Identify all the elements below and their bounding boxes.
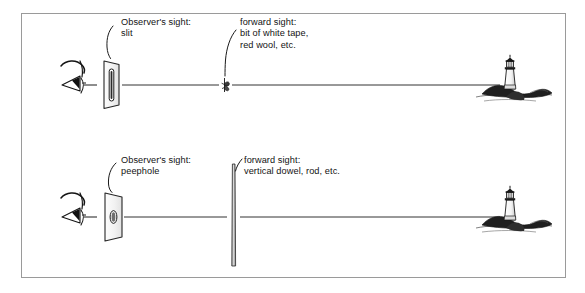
label-observer-sight-slit: Observer's sight: slit — [121, 17, 191, 40]
figure-root: Observer's sight: slit forward sight: bi… — [0, 0, 585, 293]
leader-line-icon — [107, 26, 113, 59]
label-forward-sight-tape: forward sight: bit of white tape, red wo… — [240, 17, 308, 51]
slit-plate-icon — [104, 61, 119, 109]
eye-icon — [61, 193, 86, 225]
lighthouse-icon — [476, 55, 552, 101]
lighthouse-icon — [476, 186, 552, 232]
eye-icon — [61, 61, 86, 93]
label-observer-sight-peephole: Observer's sight: peephole — [121, 155, 191, 178]
peephole-plate-icon — [105, 193, 122, 241]
label-forward-sight-dowel: forward sight: vertical dowel, rod, etc. — [244, 155, 340, 178]
tape-knot-icon — [222, 78, 230, 92]
leader-line-icon — [108, 163, 116, 193]
leader-line-icon — [225, 30, 236, 76]
vertical-dowel-icon — [232, 164, 236, 266]
leader-line-icon — [236, 159, 243, 171]
